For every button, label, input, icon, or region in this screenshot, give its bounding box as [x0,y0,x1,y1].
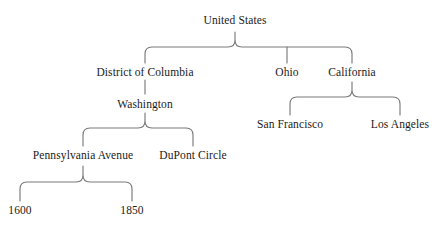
node-label-pennsylvania-avenue: Pennsylvania Avenue [33,149,133,162]
brace-pennsylvania-avenue [20,166,132,201]
node-label-washington: Washington [117,98,173,111]
node-label-ohio: Ohio [275,66,298,79]
node-label-san-francisco: San Francisco [257,118,323,131]
node-label-los-angeles: Los Angeles [371,118,429,131]
node-label-district-of-columbia: District of Columbia [96,66,193,79]
brace-united-states [145,32,352,63]
brace-california [290,82,400,115]
node-label-address-1600: 1600 [8,204,31,217]
brace-washington [83,113,193,146]
node-label-address-1850: 1850 [120,204,143,217]
node-label-california: California [328,66,376,79]
tree-diagram: United States District of Columbia Ohio … [0,0,442,234]
connector-layer [0,0,442,234]
node-label-united-states: United States [204,14,267,27]
node-label-dupont-circle: DuPont Circle [159,149,226,162]
